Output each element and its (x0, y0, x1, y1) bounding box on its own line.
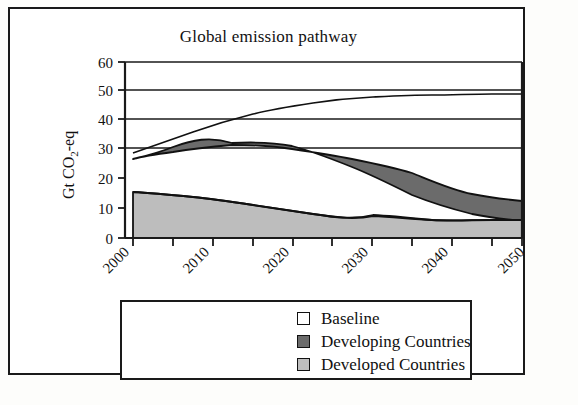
x-tick-label: 2020 (260, 244, 293, 277)
legend-item-developing-countries: Developing Countries (297, 330, 471, 353)
chart-plot-area: 60 50 40 30 20 10 0 Gt CO2-eq (10, 9, 527, 304)
figure-frame: Global emission pathway (8, 7, 525, 375)
y-tick-label: 0 (106, 231, 114, 247)
y-tick-label: 60 (98, 55, 113, 71)
legend-label-developing-countries: Developing Countries (321, 332, 471, 352)
y-axis-title: Gt CO2-eq (60, 131, 80, 199)
x-tick-label: 2030 (339, 244, 372, 277)
legend-label-developed-countries: Developed Countries (321, 355, 465, 375)
y-tick-labels: 60 50 40 30 20 10 0 (98, 55, 113, 247)
y-tick-label: 30 (98, 141, 113, 157)
legend-swatch-developing-countries (297, 335, 310, 348)
chart-legend: Baseline Developing Countries Developed … (120, 300, 472, 380)
x-tick-labels: 2000 2010 2020 2030 2040 2050 (100, 244, 527, 277)
legend-item-developed-countries: Developed Countries (297, 353, 471, 376)
svg-text:Gt CO2-eq: Gt CO2-eq (60, 131, 80, 199)
x-tick-label: 2050 (495, 244, 527, 277)
y-tick-label: 20 (98, 171, 113, 187)
x-tick-marks (133, 238, 522, 246)
x-tick-label: 2010 (180, 244, 213, 277)
x-tick-label: 2000 (100, 244, 133, 277)
y-tick-label: 50 (98, 83, 113, 99)
y-axis-title-tail: -eq (60, 131, 78, 151)
x-tick-label: 2040 (419, 244, 452, 277)
y-tick-label: 40 (98, 112, 113, 128)
legend-item-baseline: Baseline (297, 307, 471, 330)
y-tick-label: 10 (98, 201, 113, 217)
legend-swatch-developed-countries (297, 358, 310, 371)
y-axis-title-main: Gt CO (60, 157, 77, 199)
legend-swatch-baseline (297, 312, 310, 325)
legend-label-baseline: Baseline (321, 309, 380, 329)
